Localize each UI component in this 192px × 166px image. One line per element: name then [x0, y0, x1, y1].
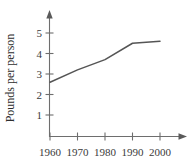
line-chart-figure: 5 4 3 2 1 1960 1970 1980 1990 2000 Pound…: [0, 0, 192, 166]
y-tick-label-2: 2: [37, 89, 43, 101]
data-series-line: [50, 41, 160, 82]
chart-plot-area: 5 4 3 2 1 1960 1970 1980 1990 2000 Pound…: [0, 0, 192, 166]
y-axis-arrow-icon: [46, 10, 52, 19]
y-tick-label-3: 3: [37, 68, 43, 80]
x-tick-label-1990: 1990: [122, 146, 145, 158]
x-tick-label-1980: 1980: [94, 146, 117, 158]
y-tick-label-4: 4: [37, 48, 43, 60]
y-tick-label-5: 5: [37, 27, 43, 39]
y-tick-label-1: 1: [37, 109, 43, 121]
y-axis-title: Pounds per person: [3, 34, 17, 123]
x-tick-label-1970: 1970: [67, 146, 90, 158]
x-tick-label-1960: 1960: [39, 146, 62, 158]
x-axis-arrow-icon: [179, 133, 188, 139]
x-tick-label-2000: 2000: [149, 146, 172, 158]
